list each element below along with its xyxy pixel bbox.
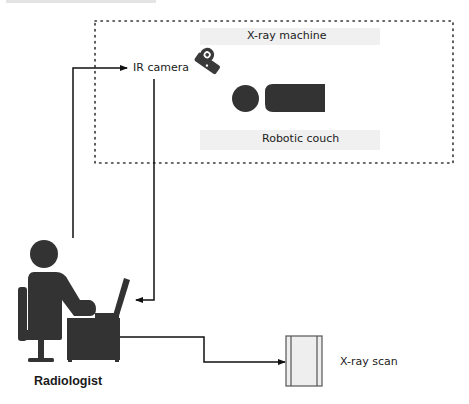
diagram-canvas: X-ray machine IR camera Robotic couch X-… — [0, 0, 469, 404]
radiologist-icon — [18, 240, 130, 362]
xray-machine-label: X-ray machine — [247, 29, 327, 42]
arrow-ir-camera-to-radiologist — [136, 79, 154, 300]
ir-camera-label: IR camera — [133, 61, 189, 74]
document-scan-icon — [286, 336, 322, 386]
camera-icon — [194, 44, 226, 74]
patient-on-couch-icon — [232, 84, 325, 112]
radiologist-label: Radiologist — [34, 374, 102, 388]
robotic-couch-label: Robotic couch — [262, 132, 339, 145]
arrow-radiologist-to-xray-scan — [120, 337, 285, 362]
xray-scan-label: X-ray scan — [340, 355, 398, 368]
arrow-radiologist-to-ir-camera — [73, 68, 127, 238]
